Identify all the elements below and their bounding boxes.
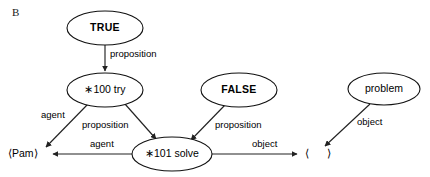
terminal-open-bracket: ⟨ [305, 147, 309, 159]
edge-true-to-try: proposition [105, 45, 156, 71]
node-label-try: ∗100 try [84, 83, 126, 95]
semantic-network-figure: B propositionagentpropositionproposition… [0, 0, 430, 177]
terminal-close-bracket: ⟩ [327, 147, 331, 159]
node-problem[interactable]: problem [348, 73, 420, 105]
diagram-canvas: B propositionagentpropositionproposition… [0, 0, 430, 177]
edge-label-try-to-pam: agent [41, 109, 65, 120]
edge-label-solve-to-pam: agent [90, 138, 114, 149]
edge-false-to-solve: proposition [191, 105, 261, 140]
node-label-true: TRUE [90, 21, 120, 33]
node-label-problem: problem [365, 82, 403, 94]
edge-line-try-to-solve [125, 104, 156, 139]
node-label-solve: ∗101 solve [145, 147, 199, 159]
nodes-layer: TRUE∗100 tryFALSE∗101 solveproblem [67, 11, 420, 171]
edge-label-solve-to-bracket: object [252, 138, 278, 149]
edge-label-problem-to-bracket: object [357, 116, 383, 127]
edge-label-false-to-solve: proposition [215, 119, 261, 130]
edge-solve-to-pam: agent [53, 138, 132, 154]
node-false[interactable]: FALSE [201, 73, 277, 107]
terminal-pam: ⟨Pam⟩ [8, 147, 38, 159]
node-label-false: FALSE [221, 83, 256, 95]
edge-solve-to-bracket: object [212, 138, 297, 154]
node-solve[interactable]: ∗101 solve [132, 137, 212, 171]
panel-label: B [12, 6, 19, 18]
edge-label-true-to-try: proposition [110, 48, 156, 59]
node-try[interactable]: ∗100 try [67, 73, 143, 107]
edge-label-try-to-solve: proposition [82, 119, 128, 130]
edge-try-to-pam: agent [41, 104, 88, 147]
edge-problem-to-bracket: object [325, 104, 383, 146]
node-true[interactable]: TRUE [67, 11, 143, 45]
edge-try-to-solve: proposition [82, 104, 156, 139]
